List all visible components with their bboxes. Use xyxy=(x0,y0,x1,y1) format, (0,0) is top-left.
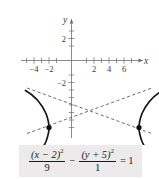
plot-area: −4 −2 2 4 6 2 −2 x y xyxy=(0,0,159,145)
left-branch-curve xyxy=(26,91,50,146)
x-axis-arrow xyxy=(139,59,144,63)
x-axis-name: x xyxy=(143,56,149,66)
first-numerator-exponent: 2 xyxy=(60,147,63,154)
right-branch-curve xyxy=(139,91,159,146)
left-vertex-marker xyxy=(46,125,51,130)
x-tick-label-2: 2 xyxy=(92,64,96,74)
hyperbola-figure: −4 −2 2 4 6 2 −2 x y (x − 2)2 xyxy=(0,0,159,179)
second-numerator-exponent: 2 xyxy=(111,147,114,154)
second-numerator-base: (y + 5) xyxy=(81,149,110,160)
equation-panel: (x − 2)2 9 − (y + 5)2 1 = 1 xyxy=(19,145,142,177)
hyperbola-equation: (x − 2)2 9 − (y + 5)2 1 = 1 xyxy=(27,148,133,174)
right-hand-side: 1 xyxy=(128,156,133,167)
equation-operator: − xyxy=(69,156,75,167)
y-tick-label-2: 2 xyxy=(62,34,66,44)
y-axis-name: y xyxy=(62,15,68,25)
second-numerator: (y + 5)2 xyxy=(79,148,116,161)
coordinate-plane: −4 −2 2 4 6 2 −2 x y xyxy=(0,0,159,145)
first-numerator-base: (x − 2) xyxy=(31,149,60,160)
x-tick-label-6: 6 xyxy=(122,64,126,74)
second-denominator: 1 xyxy=(93,162,102,174)
first-denominator: 9 xyxy=(43,162,52,174)
y-tick-label-neg2: −2 xyxy=(57,78,66,88)
equals-sign: = xyxy=(120,156,126,167)
second-fraction: (y + 5)2 1 xyxy=(79,148,116,174)
x-axis xyxy=(21,59,143,63)
x-tick-label-neg4: −4 xyxy=(29,64,39,74)
x-tick-label-neg2: −2 xyxy=(44,64,53,74)
y-axis-arrow xyxy=(70,19,74,24)
first-numerator: (x − 2)2 xyxy=(29,148,66,161)
right-vertex-marker xyxy=(136,125,141,130)
first-fraction: (x − 2)2 9 xyxy=(29,148,66,174)
x-tick-label-4: 4 xyxy=(107,64,112,74)
